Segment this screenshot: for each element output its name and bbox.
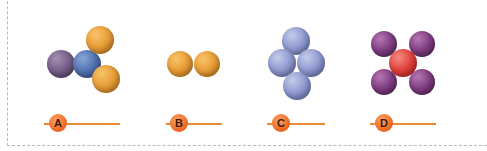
option-letter-badge[interactable]: A <box>49 114 67 132</box>
red-atom <box>389 49 417 77</box>
lavender-atom <box>283 72 311 100</box>
option-letter-badge[interactable]: D <box>375 114 393 132</box>
purple-grey-atom <box>47 50 75 78</box>
option-letter-badge[interactable]: C <box>272 114 290 132</box>
orange-atom <box>86 26 114 54</box>
orange-atom <box>92 65 120 93</box>
orange-atom <box>194 51 220 77</box>
orange-atom <box>167 51 193 77</box>
option-letter-badge[interactable]: B <box>170 114 188 132</box>
